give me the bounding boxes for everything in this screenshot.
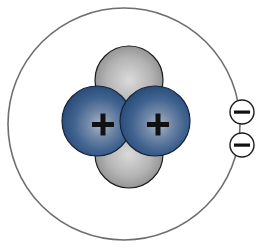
atom-diagram: Helium atom (Bohr model): [0, 0, 262, 249]
electron-top: [230, 100, 254, 124]
minus-icon: [234, 111, 250, 114]
minus-icon: [234, 144, 250, 147]
proton-right: [120, 86, 190, 156]
electron-bottom: [230, 133, 254, 157]
atom-svg: [0, 0, 262, 249]
